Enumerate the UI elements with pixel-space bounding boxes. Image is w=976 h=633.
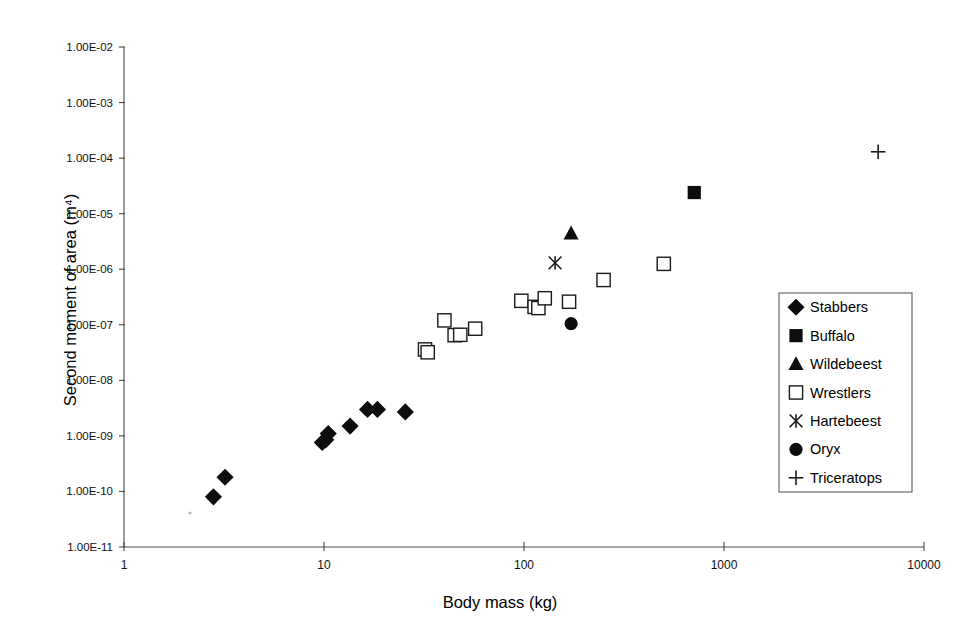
data-point-triceratops (871, 145, 886, 160)
x-tick-label: 10000 (907, 558, 941, 572)
legend: StabbersBuffaloWildebeestWrestlersHarteb… (779, 293, 912, 492)
legend-label-hartebeest: Hartebeest (810, 413, 881, 429)
legend-marker-oryx (789, 443, 802, 456)
legend-label-buffalo: Buffalo (810, 328, 855, 344)
data-point-wrestlers (421, 346, 434, 359)
x-tick-label: 1000 (711, 558, 738, 572)
legend-label-oryx: Oryx (810, 441, 841, 457)
legend-label-triceratops: Triceratops (810, 470, 882, 486)
data-point-wrestlers (469, 322, 482, 335)
data-point-wrestlers (657, 257, 670, 270)
x-tick-label: 1 (121, 558, 128, 572)
scatter-chart: 1.00E-111.00E-101.00E-091.00E-081.00E-07… (0, 0, 976, 633)
data-point-stabbers (341, 418, 358, 435)
y-tick-label: 1.00E-10 (66, 485, 113, 497)
data-point-wrestlers (597, 273, 610, 286)
series-wrestlers (418, 257, 670, 359)
legend-label-stabbers: Stabbers (810, 299, 868, 315)
legend-marker-buffalo (789, 329, 802, 342)
legend-marker-wrestlers (789, 386, 802, 399)
noise-speck (188, 511, 191, 514)
data-point-stabbers (216, 469, 233, 486)
x-tick-label: 10 (317, 558, 331, 572)
series-triceratops (871, 145, 886, 160)
data-point-buffalo (688, 186, 701, 199)
series-buffalo (688, 186, 701, 199)
legend-label-wrestlers: Wrestlers (810, 385, 871, 401)
data-point-wrestlers (562, 295, 575, 308)
y-axis-label: Second moment of area (m⁴) (61, 194, 79, 407)
series-wildebeest (564, 226, 579, 240)
y-tick-label: 1.00E-02 (66, 41, 113, 53)
y-tick-label: 1.00E-11 (67, 541, 113, 553)
y-tick-label: 1.00E-03 (66, 97, 113, 109)
y-tick-label: 1.00E-04 (66, 152, 113, 164)
data-point-stabbers (369, 401, 386, 418)
series-hartebeest (549, 256, 562, 269)
data-point-stabbers (205, 488, 222, 505)
x-tick-label: 100 (514, 558, 534, 572)
legend-label-wildebeest: Wildebeest (810, 356, 882, 372)
data-point-wrestlers (438, 314, 451, 327)
data-point-wrestlers (515, 294, 528, 307)
series-oryx (565, 317, 578, 330)
data-point-oryx (565, 317, 578, 330)
y-tick-label: 1.00E-09 (66, 430, 113, 442)
series-stabbers (205, 401, 414, 506)
data-point-wrestlers (538, 292, 551, 305)
data-point-hartebeest (549, 256, 562, 269)
data-point-wildebeest (564, 226, 579, 240)
x-axis-label: Body mass (kg) (443, 593, 558, 611)
data-point-wrestlers (454, 328, 467, 341)
plot-area: 1.00E-111.00E-101.00E-091.00E-081.00E-07… (0, 0, 976, 633)
data-point-stabbers (397, 403, 414, 420)
